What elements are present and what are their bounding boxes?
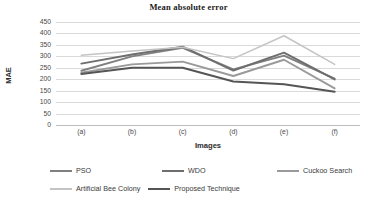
legend-swatch-icon xyxy=(148,188,170,190)
legend-swatch-icon xyxy=(277,170,299,172)
legend-label: Artificial Bee Colony xyxy=(76,184,140,193)
legend-item-cuckoo-search[interactable]: Cuckoo Search xyxy=(277,166,352,175)
y-tick-label: 100 xyxy=(40,99,51,106)
x-axis-title: Images xyxy=(56,141,360,150)
legend-label: Proposed Technique xyxy=(174,184,239,193)
legend-label: Cuckoo Search xyxy=(303,166,352,175)
legend-swatch-icon xyxy=(50,188,72,190)
chart-legend: PSOWDOCuckoo Search Artificial Bee Colon… xyxy=(0,160,377,202)
x-tick-label: (b) xyxy=(128,128,136,135)
y-tick-label: 300 xyxy=(40,53,51,60)
y-tick-label: 0 xyxy=(47,122,51,129)
legend-row-2: Artificial Bee ColonyProposed Technique xyxy=(0,180,377,197)
series-layer xyxy=(56,22,360,125)
legend-label: WDO xyxy=(188,166,206,175)
series-line-proposed-technique xyxy=(81,68,334,92)
y-axis-title-text: MAE xyxy=(4,67,13,84)
chart-title: Mean absolute error xyxy=(0,2,377,12)
y-tick-label: 350 xyxy=(40,41,51,48)
y-tick-label: 250 xyxy=(40,64,51,71)
legend-item-proposed-technique[interactable]: Proposed Technique xyxy=(148,184,239,193)
legend-row-1: PSOWDOCuckoo Search xyxy=(0,162,377,179)
y-tick-label: 400 xyxy=(40,30,51,37)
x-axis-tick-labels: (a)(b)(c)(d)(e)(f) xyxy=(56,128,360,140)
x-tick-label: (f) xyxy=(331,128,337,135)
plot-area xyxy=(56,22,360,125)
chart-figure: Mean absolute error MAE 0501001502002503… xyxy=(0,0,377,204)
legend-item-pso[interactable]: PSO xyxy=(50,166,162,175)
y-axis-tick-labels: 050100150200250300350400450 xyxy=(22,22,54,125)
legend-swatch-icon xyxy=(50,170,72,172)
x-tick-label: (a) xyxy=(77,128,85,135)
legend-item-artificial-bee-colony[interactable]: Artificial Bee Colony xyxy=(50,184,140,193)
x-tick-label: (c) xyxy=(179,128,187,135)
legend-swatch-icon xyxy=(162,170,184,172)
legend-label: PSO xyxy=(76,166,91,175)
x-tick-label: (d) xyxy=(229,128,237,135)
gridline xyxy=(56,125,360,126)
y-tick-label: 450 xyxy=(40,19,51,26)
y-tick-label: 200 xyxy=(40,76,51,83)
legend-item-wdo[interactable]: WDO xyxy=(162,166,277,175)
x-tick-label: (e) xyxy=(280,128,288,135)
y-axis-title: MAE xyxy=(2,52,14,98)
y-tick-label: 150 xyxy=(40,87,51,94)
y-tick-label: 50 xyxy=(43,110,51,117)
